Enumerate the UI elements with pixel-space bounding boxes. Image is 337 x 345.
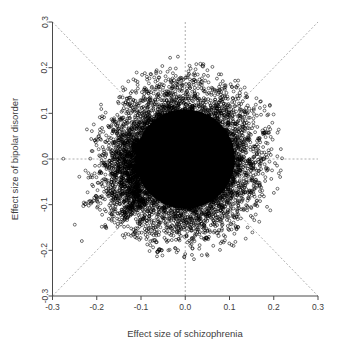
x-tick-label: 0.1	[224, 302, 236, 312]
x-tick-label: -0.2	[89, 302, 104, 312]
scatter-plot-figure: -0.3-0.2-0.10.00.10.20.3 -0.3-0.2-0.10.0…	[0, 0, 337, 345]
y-tick-label: 0.1	[40, 107, 50, 119]
plot-canvas: -0.3-0.2-0.10.00.10.20.3 -0.3-0.2-0.10.0…	[0, 0, 337, 345]
y-tick-label: 0.2	[40, 61, 50, 73]
x-tick-label: 0.0	[179, 302, 191, 312]
x-tick-label: 0.2	[268, 302, 280, 312]
x-axis-title: Effect size of schizophrenia	[127, 328, 243, 339]
y-tick-label: 0.3	[40, 16, 50, 28]
y-tick-label: -0.1	[40, 197, 50, 212]
y-tick-label: -0.3	[40, 288, 50, 303]
x-tick-label: 0.3	[312, 302, 324, 312]
x-tick-label: -0.1	[134, 302, 149, 312]
y-tick-label: 0.0	[40, 153, 50, 165]
y-axis-title: Effect size of bipolar disorder	[9, 98, 20, 220]
y-tick-label: -0.2	[40, 243, 50, 258]
